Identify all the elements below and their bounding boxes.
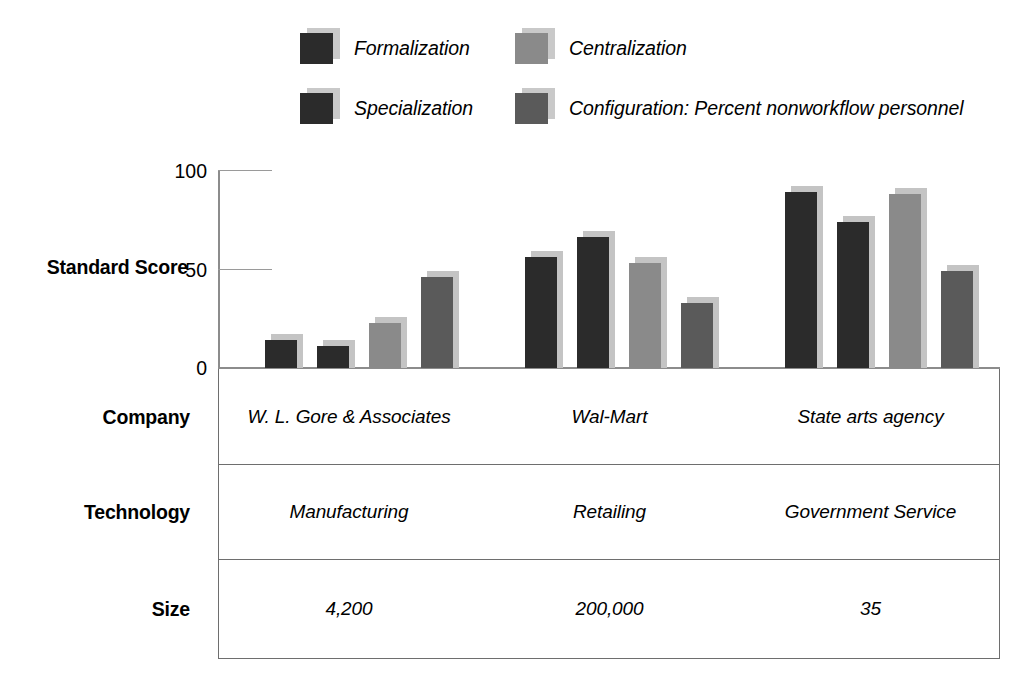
table-row: Manufacturing Retailing Government Servi… — [219, 464, 999, 559]
bar-configuration-2 — [681, 297, 719, 368]
info-table: W. L. Gore & Associates Wal-Mart State a… — [218, 369, 1000, 659]
table-cell: Wal-Mart — [479, 369, 740, 464]
table-cell: Retailing — [479, 465, 740, 559]
bar-formalization-3 — [785, 186, 823, 368]
bar-face — [941, 271, 973, 368]
bar-specialization-3 — [837, 216, 875, 368]
bar-face — [369, 323, 401, 368]
bar-centralization-2 — [629, 257, 667, 368]
bar-face — [629, 263, 661, 368]
row-label-size: Size — [10, 598, 190, 621]
bar-face — [681, 303, 713, 368]
bar-configuration-3 — [941, 265, 979, 368]
bar-specialization-2 — [577, 231, 615, 368]
bar-centralization-1 — [369, 317, 407, 368]
plot-area — [218, 170, 1000, 368]
bar-face — [785, 192, 817, 368]
table-cell: 4,200 — [219, 560, 479, 658]
bar-face — [317, 346, 349, 368]
y-tick-label-50: 50 — [147, 259, 207, 282]
bar-formalization-1 — [265, 334, 303, 368]
bar-specialization-1 — [317, 340, 355, 368]
bar-face — [265, 340, 297, 368]
table-row: W. L. Gore & Associates Wal-Mart State a… — [219, 369, 999, 464]
table-cell: 200,000 — [479, 560, 740, 658]
row-label-company: Company — [10, 406, 190, 429]
table-row: 4,200 200,000 35 — [219, 559, 999, 658]
table-cell: W. L. Gore & Associates — [219, 369, 479, 464]
y-tick-label-100: 100 — [147, 160, 207, 183]
bar-face — [577, 237, 609, 368]
table-cell: Government Service — [740, 465, 1001, 559]
bar-face — [525, 257, 557, 368]
bar-face — [889, 194, 921, 368]
table-cell: 35 — [740, 560, 1001, 658]
bar-centralization-3 — [889, 188, 927, 368]
row-label-technology: Technology — [10, 501, 190, 524]
bar-face — [421, 277, 453, 368]
y-tick-label-0: 0 — [147, 357, 207, 380]
bar-formalization-2 — [525, 251, 563, 368]
table-cell: Manufacturing — [219, 465, 479, 559]
table-cell: State arts agency — [740, 369, 1001, 464]
bar-configuration-1 — [421, 271, 459, 368]
bar-face — [837, 222, 869, 368]
